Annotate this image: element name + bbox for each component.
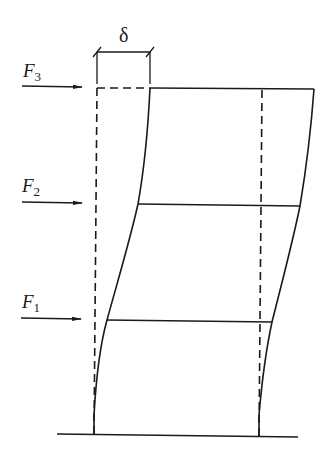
deformed-left-column [94, 88, 150, 434]
force-arrow-f1 [21, 318, 81, 319]
force-subscript: 3 [35, 69, 42, 84]
force-arrow-f3 [22, 86, 82, 87]
original-frame [94, 88, 262, 436]
bottom-beam [107, 320, 272, 322]
force-label-f1: F1 [22, 291, 40, 316]
force-symbol: F [22, 175, 34, 196]
deformed-frame [94, 88, 314, 436]
force-symbol: F [23, 60, 35, 81]
deformed-right-column [259, 89, 314, 436]
displacement-dimension [93, 47, 154, 84]
force-label-f3: F3 [23, 60, 41, 85]
force-arrow-f2 [22, 202, 82, 203]
middle-beam [138, 204, 300, 206]
top-beam [150, 88, 314, 89]
ground-line [57, 434, 298, 437]
force-label-f2: F2 [22, 175, 40, 200]
displacement-label: δ [119, 24, 128, 47]
force-symbol: F [22, 291, 34, 312]
force-arrows [21, 86, 82, 319]
frame-deformation-diagram [0, 0, 324, 454]
force-subscript: 2 [34, 184, 41, 199]
force-subscript: 1 [34, 300, 41, 315]
